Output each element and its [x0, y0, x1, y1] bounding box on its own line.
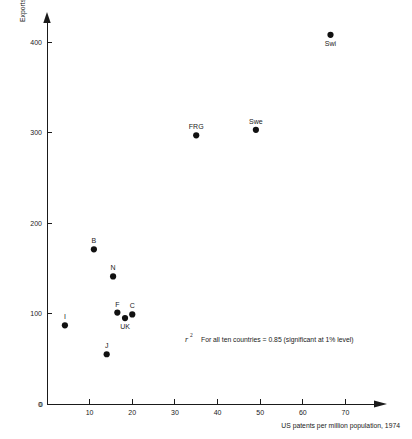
data-point-i — [62, 322, 68, 328]
x-tick-label: 70 — [342, 409, 350, 416]
data-point-label-j: J — [105, 342, 109, 349]
annotation-body-text: For all ten countries = 0.85 (significan… — [201, 336, 353, 344]
data-point-label-c: C — [130, 302, 135, 309]
x-tick-label: 40 — [214, 409, 222, 416]
data-point-c — [129, 311, 135, 317]
data-point-label-uk: UK — [120, 323, 130, 330]
y-tick-label: 300 — [30, 129, 42, 136]
data-point-uk — [122, 315, 128, 321]
data-points-group: SwiSweFRGBNFUKCIJ — [62, 32, 337, 358]
data-point-label-f: F — [115, 301, 119, 308]
data-point-n — [110, 273, 116, 279]
y-tick-label: 100 — [30, 310, 42, 317]
y-axis-title: Exports (US $) per head, 1974 — [19, 0, 27, 22]
x-tick-label: 60 — [299, 409, 307, 416]
x-tick-label: 20 — [128, 409, 136, 416]
scatter-chart: 010203040506070 0100200300400 SwiSweFRGB… — [0, 0, 412, 439]
y-tick-label: 0 — [38, 401, 42, 408]
data-point-label-swe: Swe — [249, 118, 263, 125]
x-tick-label: 30 — [171, 409, 179, 416]
data-point-frg — [193, 132, 199, 138]
annotation-r-symbol: r — [185, 335, 189, 344]
data-point-label-b: B — [92, 237, 97, 244]
data-point-j — [104, 351, 110, 357]
plot-area: 010203040506070 0100200300400 SwiSweFRGB… — [0, 0, 412, 439]
data-point-swi — [327, 32, 333, 38]
x-ticks-group: 010203040506070 — [39, 399, 349, 416]
axes-group — [43, 12, 387, 408]
y-tick-label: 400 — [30, 39, 42, 46]
x-axis-title: US patents per million population, 1974 — [281, 422, 400, 430]
y-tick-label: 200 — [30, 220, 42, 227]
data-point-b — [91, 246, 97, 252]
x-axis-arrowhead — [374, 400, 387, 407]
r-squared-annotation: r 2 For all ten countries = 0.85 (signif… — [185, 332, 353, 344]
y-axis-arrowhead — [43, 12, 50, 23]
annotation-r-superscript: 2 — [190, 332, 193, 338]
data-point-label-i: I — [64, 313, 66, 320]
data-point-label-frg: FRG — [189, 123, 204, 130]
data-point-swe — [253, 127, 259, 133]
x-tick-label: 10 — [86, 409, 94, 416]
data-point-label-n: N — [111, 264, 116, 271]
y-ticks-group: 0100200300400 — [30, 39, 52, 408]
data-point-f — [114, 310, 120, 316]
x-tick-label: 50 — [256, 409, 264, 416]
data-point-label-swi: Swi — [325, 40, 337, 47]
